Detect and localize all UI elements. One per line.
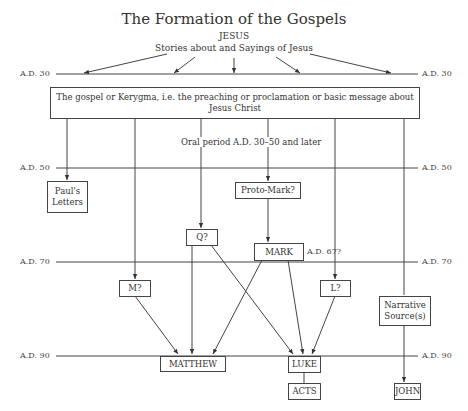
jesus-subtitle: Stories about and Sayings of Jesus bbox=[0, 43, 468, 53]
era-label-90-left: A.D. 90 bbox=[20, 351, 50, 360]
edge-mark-matthew bbox=[213, 260, 262, 354]
acts-box: ACTS bbox=[288, 383, 321, 400]
era-label-70-left: A.D. 70 bbox=[20, 257, 50, 266]
era-label-70-right: A.D. 70 bbox=[422, 257, 452, 266]
arrow-jesus-1 bbox=[84, 54, 167, 73]
era-label-90-right: A.D. 90 bbox=[422, 351, 452, 360]
oral-period-label: Oral period A.D. 30–50 and later bbox=[180, 137, 322, 147]
john-box: JOHN bbox=[394, 383, 421, 400]
era-label-30-right: A.D. 30 bbox=[422, 69, 452, 78]
l-box: L? bbox=[320, 280, 351, 297]
m-box: M? bbox=[119, 280, 151, 297]
narrative-sources-box: Narrative Source(s) bbox=[379, 296, 431, 326]
edge-mark-luke bbox=[288, 260, 303, 354]
arrow-jesus-2 bbox=[174, 57, 195, 73]
kerygma-box: The gospel or Kerygma, i.e. the preachin… bbox=[50, 87, 420, 119]
pauls-letters-box: Paul's Letters bbox=[47, 181, 88, 213]
mark-box: MARK bbox=[254, 243, 304, 261]
arrow-jesus-4 bbox=[276, 57, 300, 73]
proto-mark-box: Proto-Mark? bbox=[235, 182, 301, 199]
edge-q-luke bbox=[211, 245, 293, 354]
era-label-50-left: A.D. 50 bbox=[20, 163, 50, 172]
era-label-50-right: A.D. 50 bbox=[422, 163, 452, 172]
edge-m-matthew bbox=[135, 296, 178, 354]
era-label-30-left: A.D. 30 bbox=[20, 69, 50, 78]
jesus-label: JESUS bbox=[0, 31, 468, 41]
luke-box: LUKE bbox=[288, 356, 321, 373]
diagram-title: The Formation of the Gospels bbox=[0, 10, 468, 28]
matthew-box: MATTHEW bbox=[160, 356, 226, 372]
edge-l-luke bbox=[312, 296, 335, 354]
q-box: Q? bbox=[186, 229, 218, 246]
mark-date-label: A.D. 67? bbox=[307, 247, 341, 256]
arrow-jesus-5 bbox=[310, 54, 391, 73]
